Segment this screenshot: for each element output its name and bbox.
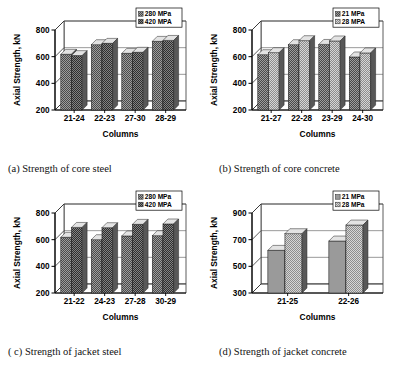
bar xyxy=(102,43,113,110)
y-tick-label: 800 xyxy=(36,26,50,35)
figure-grid: 20040060080021-2422-2327-3028-29ColumnsA… xyxy=(0,0,393,365)
y-tick-label: 400 xyxy=(36,262,50,271)
x-tick-label: 27-28 xyxy=(125,297,146,306)
legend-swatch xyxy=(336,195,341,200)
x-axis-title: Columns xyxy=(103,129,139,139)
y-tick-label: 800 xyxy=(36,209,50,218)
chart-d: 30050070090021-2522-26ColumnsAxial Stren… xyxy=(197,185,393,333)
x-axis-title: Columns xyxy=(300,312,336,322)
legend-label: 28 MPA xyxy=(342,18,366,25)
bar xyxy=(152,41,163,110)
legend-swatch xyxy=(336,202,341,207)
bar xyxy=(319,44,330,110)
bar xyxy=(329,241,346,293)
bar xyxy=(122,236,133,293)
bar xyxy=(360,53,371,110)
bar xyxy=(299,41,310,110)
legend: 21 MPa28 MPA xyxy=(333,8,379,27)
bar xyxy=(329,41,340,110)
bar xyxy=(163,40,174,110)
bar xyxy=(71,227,82,293)
x-tick-label: 27-30 xyxy=(125,114,146,123)
legend-label: 21 MPa xyxy=(342,10,365,17)
bar xyxy=(258,55,269,110)
y-tick-label: 300 xyxy=(233,289,247,298)
x-tick-label: 21-24 xyxy=(64,114,85,123)
y-tick-label: 500 xyxy=(233,262,247,271)
y-tick-label: 200 xyxy=(36,289,50,298)
x-tick-label: 21-27 xyxy=(261,114,282,123)
legend-swatch xyxy=(139,202,144,207)
caption-a: (a) Strength of core steel xyxy=(8,163,112,174)
bar xyxy=(122,53,133,110)
chart-svg: 20040060080021-2422-2327-3028-29ColumnsA… xyxy=(0,2,196,152)
y-tick-label: 600 xyxy=(233,53,247,62)
bar xyxy=(288,45,299,110)
chart-b: 20040060080021-2722-2823-2924-30ColumnsA… xyxy=(197,2,393,150)
y-axis-title: Axial Strength, kN xyxy=(209,34,219,106)
x-tick-label: 24-30 xyxy=(352,114,373,123)
chart-c: 20040060080021-2224-2327-2830-29ColumnsA… xyxy=(0,185,196,333)
legend: 280 MPa420 MPA xyxy=(136,8,182,27)
bar xyxy=(349,57,360,110)
bar xyxy=(132,224,143,293)
x-axis-title: Columns xyxy=(300,129,336,139)
y-axis-title: Axial Strength, kN xyxy=(209,217,219,289)
legend-swatch xyxy=(139,195,144,200)
x-tick-label: 23-29 xyxy=(322,114,343,123)
x-tick-label: 22-26 xyxy=(338,297,359,306)
y-tick-label: 400 xyxy=(36,79,50,88)
bar xyxy=(268,53,279,110)
bar xyxy=(152,236,163,293)
bar xyxy=(61,237,72,293)
panel-d: 30050070090021-2522-26ColumnsAxial Stren… xyxy=(197,183,393,365)
panel-a: 20040060080021-2422-2327-3028-29ColumnsA… xyxy=(0,0,196,182)
bar xyxy=(132,52,143,110)
chart-svg: 20040060080021-2722-2823-2924-30ColumnsA… xyxy=(197,2,393,152)
legend-label: 420 MPA xyxy=(145,18,172,25)
legend: 280 MPa420 MPA xyxy=(136,191,182,210)
legend-label: 21 MPa xyxy=(342,193,365,200)
x-axis-title: Columns xyxy=(103,312,139,322)
y-tick-label: 800 xyxy=(233,26,247,35)
caption-b: (b) Strength of core concrete xyxy=(219,163,340,174)
y-tick-label: 900 xyxy=(233,209,247,218)
y-axis-title: Axial Strength, kN xyxy=(12,34,22,106)
bar xyxy=(163,224,174,293)
y-tick-label: 600 xyxy=(36,236,50,245)
x-tick-label: 22-28 xyxy=(291,114,312,123)
legend-swatch xyxy=(139,12,144,17)
caption-d: (d) Strength of jacket concrete xyxy=(219,346,347,357)
x-tick-label: 30-29 xyxy=(155,297,176,306)
legend-label: 28 MPa xyxy=(342,201,365,208)
x-tick-label: 21-22 xyxy=(64,297,85,306)
y-tick-label: 400 xyxy=(233,79,247,88)
x-tick-label: 24-23 xyxy=(94,297,115,306)
bar xyxy=(91,45,102,110)
legend-label: 280 MPa xyxy=(145,193,172,200)
legend-swatch xyxy=(336,19,341,24)
panel-b: 20040060080021-2722-2823-2924-30ColumnsA… xyxy=(197,0,393,182)
legend-label: 280 MPa xyxy=(145,10,172,17)
legend-swatch xyxy=(139,19,144,24)
y-tick-label: 200 xyxy=(36,106,50,115)
caption-c: ( c) Strength of jacket steel xyxy=(8,346,121,357)
y-tick-label: 600 xyxy=(36,53,50,62)
bar xyxy=(268,250,285,293)
bar xyxy=(71,56,82,110)
chart-svg: 30050070090021-2522-26ColumnsAxial Stren… xyxy=(197,185,393,335)
legend-swatch xyxy=(336,12,341,17)
bar xyxy=(61,54,72,110)
bar xyxy=(102,228,113,293)
y-tick-label: 200 xyxy=(233,106,247,115)
x-tick-label: 28-29 xyxy=(155,114,176,123)
legend-label: 420 MPA xyxy=(145,201,172,208)
chart-svg: 20040060080021-2224-2327-2830-29ColumnsA… xyxy=(0,185,196,335)
bar xyxy=(91,240,102,293)
panel-c: 20040060080021-2224-2327-2830-29ColumnsA… xyxy=(0,183,196,365)
x-tick-label: 22-23 xyxy=(94,114,115,123)
x-tick-label: 21-25 xyxy=(277,297,298,306)
chart-a: 20040060080021-2422-2327-3028-29ColumnsA… xyxy=(0,2,196,150)
y-axis-title: Axial Strength, kN xyxy=(12,217,22,289)
legend: 21 MPa28 MPa xyxy=(333,191,379,210)
